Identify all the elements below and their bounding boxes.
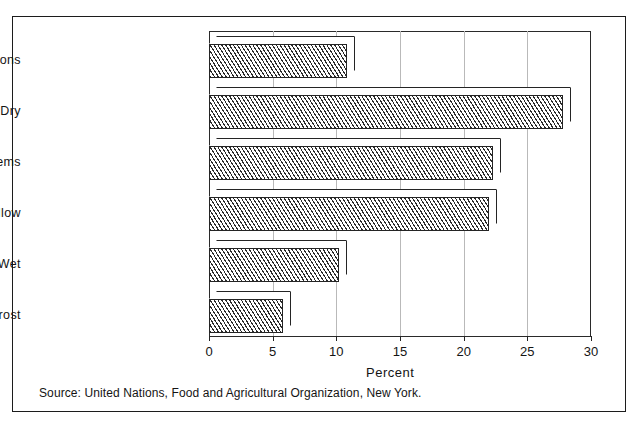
gridline [527,31,528,337]
bar-top-face [209,138,501,146]
bar-top-face [209,189,497,197]
bar [209,36,355,70]
gridline [400,31,401,337]
bar-front-face [209,44,347,78]
category-label: Too Dry [0,104,21,118]
x-axis-tick [527,336,528,341]
category-label: Too Wet [0,257,21,271]
x-axis-tick [400,336,401,341]
x-tick-label: 15 [385,344,415,359]
x-tick-label: 10 [321,344,351,359]
bar-top-face [209,36,355,44]
bar-top-face [209,240,347,248]
source-note: Source: United Nations, Food and Agricul… [39,386,421,400]
bar-top-face [209,87,571,95]
x-tick-label: 25 [512,344,542,359]
chart-frame: No limitationsToo DryChemical ProblemsSo… [12,16,626,412]
x-axis-tick [464,336,465,341]
x-tick-label: 5 [258,344,288,359]
category-label: Chemical Problems [0,155,21,169]
bar [209,240,347,274]
gridline [464,31,465,337]
category-label: Permafrost [0,308,21,322]
x-tick-label: 20 [449,344,479,359]
bar-front-face [209,95,563,129]
x-axis-tick [273,336,274,341]
x-axis-tick [336,336,337,341]
category-label: Soil Too Shallow [0,206,21,220]
x-tick-label: 0 [194,344,224,359]
bar-front-face [209,197,489,231]
x-tick-label: 30 [576,344,606,359]
x-axis-tick [591,336,592,341]
category-label: No limitations [0,53,21,67]
bar-front-face [209,248,339,282]
bar [209,291,291,325]
x-axis-title: Percent [366,365,414,380]
bar-front-face [209,146,493,180]
plot-area [209,31,591,337]
x-axis-tick [209,336,210,341]
bar-front-face [209,299,283,333]
bar [209,87,571,121]
bar-top-face [209,291,291,299]
bar [209,189,497,223]
bar [209,138,501,172]
